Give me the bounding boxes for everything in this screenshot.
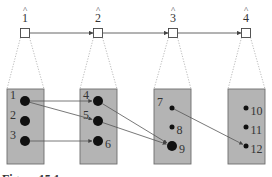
node-dot-icon (20, 96, 30, 106)
groups (7, 89, 265, 164)
top-node: 1^ (21, 5, 30, 38)
node-label: 8 (177, 123, 183, 137)
node-dot-icon (20, 136, 30, 146)
top-node: 3^ (169, 5, 178, 38)
projection-line (103, 38, 118, 90)
node-dot-icon (20, 116, 30, 126)
node-label: 12 (251, 142, 263, 156)
figure-caption: Figure 15.1 (2, 172, 60, 177)
node-label: 4 (83, 88, 89, 102)
node-label: 3 (10, 128, 16, 142)
node-label: 10 (251, 104, 263, 118)
node-dot-icon (244, 144, 249, 149)
node-dot-icon (170, 106, 175, 111)
node-dot-icon (93, 96, 103, 106)
node-dot-icon (93, 136, 103, 146)
top-node: 2^ (94, 5, 103, 38)
projection-line (7, 38, 21, 90)
node-label: 11 (251, 123, 263, 137)
projection-line (178, 38, 192, 90)
top-node: 4^ (242, 5, 251, 38)
projection-line (228, 38, 242, 90)
square-node-icon (169, 29, 178, 38)
node-dot-icon (167, 141, 177, 151)
node-label: 2 (10, 108, 16, 122)
projection-line (30, 38, 45, 90)
group-edges (30, 101, 243, 144)
square-node-icon (94, 29, 103, 38)
node-label: 1 (10, 88, 16, 102)
group-nodes: 123456789101112 (10, 88, 263, 156)
projection-line (154, 38, 169, 90)
square-node-icon (242, 29, 251, 38)
node-label: 9 (179, 142, 185, 156)
dotted-projection-lines (7, 38, 265, 90)
node-dot-icon (244, 125, 249, 130)
node-dot-icon (93, 116, 103, 126)
mapping-diagram: 1^2^3^4^ 123456789101112 Figure 15.1 (0, 0, 272, 177)
node-label: 5 (83, 108, 89, 122)
node-label: 7 (157, 95, 163, 109)
node-dot-icon (170, 125, 175, 130)
projection-line (80, 38, 94, 90)
node-label: 6 (105, 137, 111, 151)
node-dot-icon (244, 106, 249, 111)
projection-line (251, 38, 266, 90)
square-node-icon (21, 29, 30, 38)
